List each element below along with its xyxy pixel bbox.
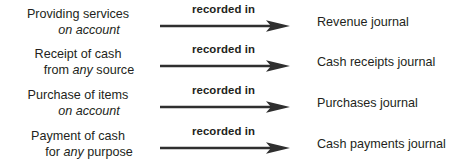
source-emphasis: any [73, 63, 93, 77]
source-line-secondary: on account [0, 23, 156, 39]
transaction-journal-flow-diagram: Providing services on account recorded i… [0, 0, 462, 163]
source-line-secondary: from any source [0, 63, 156, 79]
arrow-right-icon [160, 100, 292, 114]
source-line-primary: Receipt of cash [0, 47, 156, 63]
source-line-secondary: for any purpose [0, 145, 156, 161]
source-transaction-label: Providing services on account [0, 7, 160, 38]
source-suffix: purpose [84, 145, 133, 159]
relation-arrow: recorded in [160, 42, 305, 83]
arrow-right-icon [160, 19, 292, 33]
target-journal-label: Purchases journal [305, 96, 462, 112]
source-line-secondary: on account [0, 104, 156, 120]
flow-row: Providing services on account recorded i… [0, 2, 462, 43]
source-line-primary: Providing services [0, 7, 156, 23]
source-line-primary: Payment of cash [0, 129, 156, 145]
source-emphasis: on account [58, 23, 120, 37]
flow-row: Payment of cash for any purpose recorded… [0, 124, 462, 163]
relation-label: recorded in [160, 43, 287, 55]
flow-row: Receipt of cash from any source recorded… [0, 42, 462, 83]
source-prefix: for [45, 145, 63, 159]
source-suffix: source [93, 63, 134, 77]
arrow-right-icon [160, 59, 292, 73]
target-journal-label: Cash receipts journal [305, 55, 462, 71]
source-emphasis: on account [58, 104, 120, 118]
relation-label: recorded in [160, 3, 287, 15]
relation-arrow: recorded in [160, 83, 305, 124]
source-prefix: from [44, 63, 73, 77]
source-transaction-label: Receipt of cash from any source [0, 47, 160, 78]
source-transaction-label: Payment of cash for any purpose [0, 129, 160, 160]
arrow-right-icon [160, 141, 292, 155]
relation-arrow: recorded in [160, 124, 305, 163]
source-line-primary: Purchase of items [0, 88, 156, 104]
flow-row: Purchase of items on account recorded in… [0, 83, 462, 124]
target-journal-label: Revenue journal [305, 15, 462, 31]
target-journal-label: Cash payments journal [305, 137, 462, 153]
source-emphasis: any [63, 145, 83, 159]
relation-label: recorded in [160, 125, 287, 137]
relation-arrow: recorded in [160, 2, 305, 43]
source-transaction-label: Purchase of items on account [0, 88, 160, 119]
relation-label: recorded in [160, 84, 287, 96]
